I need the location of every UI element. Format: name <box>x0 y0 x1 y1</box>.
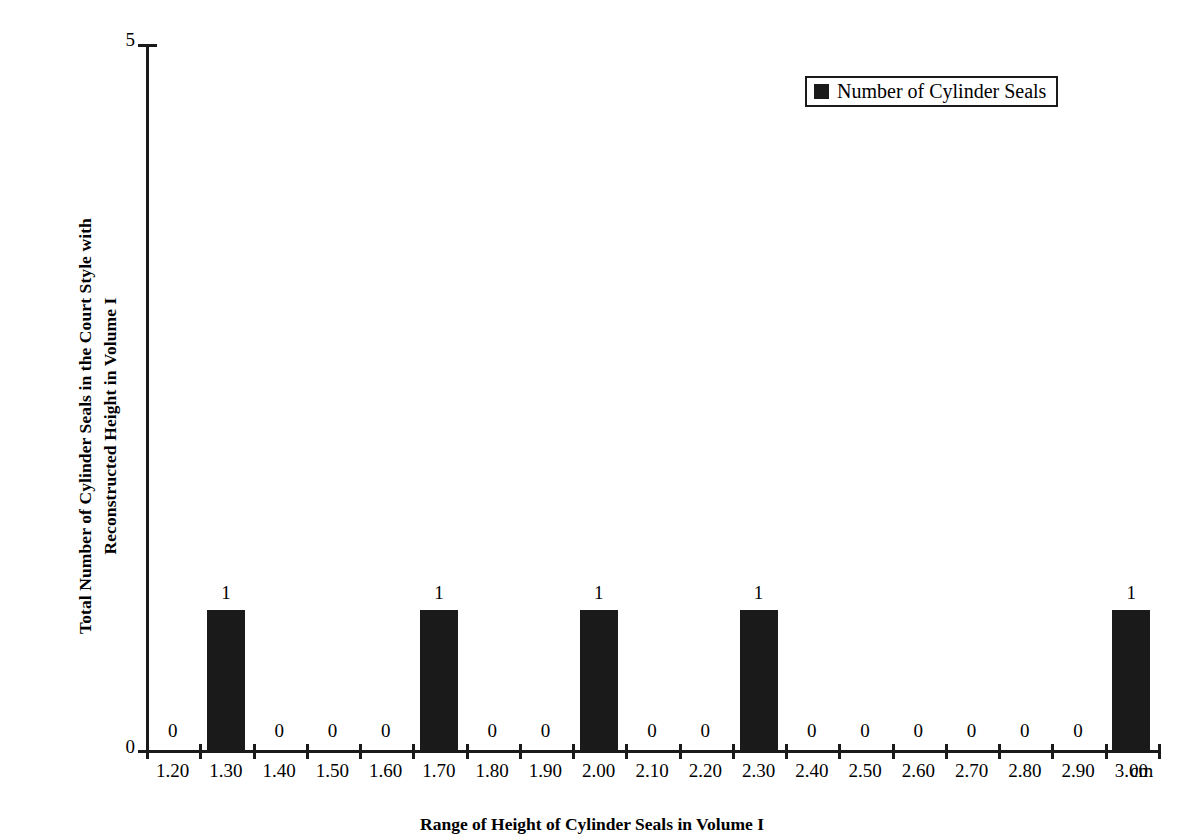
y-axis-tick-label-min: 0 <box>95 736 135 758</box>
bar-value-label: 0 <box>647 721 657 740</box>
bar <box>207 610 245 752</box>
x-axis-tick <box>998 744 1001 759</box>
x-axis-tick-label: 1.50 <box>316 760 349 782</box>
x-axis-tick-label: 2.70 <box>955 760 988 782</box>
bar-value-label: 1 <box>594 583 604 602</box>
x-axis-tick <box>253 744 256 759</box>
bar-value-label: 0 <box>1073 721 1083 740</box>
x-axis-tick <box>572 744 575 759</box>
x-axis-tick <box>146 744 149 759</box>
y-axis-title-line-2: Reconstructed Height in Volume I <box>98 298 123 555</box>
x-axis-tick-labels: 1.201.301.401.501.601.701.801.902.002.10… <box>146 760 1158 790</box>
x-axis-tick <box>945 744 948 759</box>
x-axis-tick-label: 2.20 <box>689 760 722 782</box>
bar-value-label: 0 <box>967 721 977 740</box>
y-axis-tick-label-max: 5 <box>95 29 135 51</box>
x-axis-tick-label: 2.30 <box>742 760 775 782</box>
x-axis-ticks <box>146 744 1159 760</box>
bar-value-label: 0 <box>541 721 551 740</box>
chart-legend: Number of Cylinder Seals <box>805 76 1058 107</box>
bar-group: 0 <box>998 44 1051 752</box>
bar-group: 0 <box>838 44 891 752</box>
x-axis-tick <box>1105 744 1108 759</box>
x-axis-tick-label: 1.80 <box>476 760 509 782</box>
x-axis-tick-label: 1.30 <box>209 760 242 782</box>
x-axis-unit-label: cm <box>1130 760 1153 782</box>
bar-group: 0 <box>146 44 199 752</box>
x-axis-tick <box>625 744 628 759</box>
x-axis-tick <box>466 744 469 759</box>
bar-group: 1 <box>199 44 252 752</box>
x-axis-tick-label: 2.40 <box>795 760 828 782</box>
x-axis-tick-label: 2.90 <box>1061 760 1094 782</box>
x-axis-tick-label: 2.50 <box>848 760 881 782</box>
bar <box>580 610 618 752</box>
bar-value-label: 1 <box>434 583 444 602</box>
x-axis-tick <box>306 744 309 759</box>
x-axis-tick <box>892 744 895 759</box>
x-axis-tick <box>679 744 682 759</box>
x-axis-tick-label: 1.40 <box>263 760 296 782</box>
bar-group: 0 <box>466 44 519 752</box>
bar-group: 0 <box>679 44 732 752</box>
bar-group: 1 <box>732 44 785 752</box>
bar-value-label: 1 <box>221 583 231 602</box>
x-axis-tick <box>519 744 522 759</box>
bar-group: 0 <box>625 44 678 752</box>
bar-group: 1 <box>1105 44 1158 752</box>
x-axis-tick <box>359 744 362 759</box>
bar-value-label: 0 <box>274 721 284 740</box>
bar-group: 0 <box>1051 44 1104 752</box>
x-axis-tick-label: 1.20 <box>156 760 189 782</box>
x-axis-tick <box>412 744 415 759</box>
x-axis-tick-label: 2.00 <box>582 760 615 782</box>
x-axis-tick-label: 1.70 <box>422 760 455 782</box>
bar-group: 0 <box>785 44 838 752</box>
bar-value-label: 1 <box>754 583 764 602</box>
x-axis-tick-label: 2.60 <box>902 760 935 782</box>
bar-group: 0 <box>945 44 998 752</box>
x-axis-tick <box>838 744 841 759</box>
bar-value-label: 0 <box>807 721 817 740</box>
bar <box>1112 610 1150 752</box>
x-axis-tick-label: 2.10 <box>635 760 668 782</box>
bar-group: 0 <box>306 44 359 752</box>
legend-swatch-icon <box>814 84 829 99</box>
bar-value-label: 0 <box>168 721 178 740</box>
bar-group: 1 <box>412 44 465 752</box>
x-axis-tick <box>1051 744 1054 759</box>
x-axis-tick <box>785 744 788 759</box>
legend-entry-label: Number of Cylinder Seals <box>837 81 1046 101</box>
bar-group: 0 <box>892 44 945 752</box>
y-axis-title: Total Number of Cylinder Seals in the Co… <box>68 76 128 776</box>
bar-group: 0 <box>519 44 572 752</box>
bar-value-label: 0 <box>701 721 711 740</box>
x-axis-tick-label: 1.60 <box>369 760 402 782</box>
bar-value-label: 0 <box>487 721 497 740</box>
bars-layer: 0100010010010000001 <box>146 44 1158 752</box>
bar-value-label: 0 <box>1020 721 1030 740</box>
bar-value-label: 0 <box>328 721 338 740</box>
x-axis-tick-label: 2.80 <box>1008 760 1041 782</box>
x-axis-tick <box>199 744 202 759</box>
bar-group: 1 <box>572 44 625 752</box>
x-axis-tick <box>1158 744 1161 759</box>
x-axis-tick-label: 1.90 <box>529 760 562 782</box>
bar-group: 0 <box>359 44 412 752</box>
bar <box>740 610 778 752</box>
bar-value-label: 0 <box>860 721 870 740</box>
x-axis-title: Range of Height of Cylinder Seals in Vol… <box>0 814 1184 835</box>
bar-value-label: 0 <box>914 721 924 740</box>
y-axis-title-line-1: Total Number of Cylinder Seals in the Co… <box>73 218 98 634</box>
bar <box>420 610 458 752</box>
x-axis-tick <box>732 744 735 759</box>
bar-value-label: 0 <box>381 721 391 740</box>
bar-group: 0 <box>253 44 306 752</box>
bar-value-label: 1 <box>1127 583 1137 602</box>
